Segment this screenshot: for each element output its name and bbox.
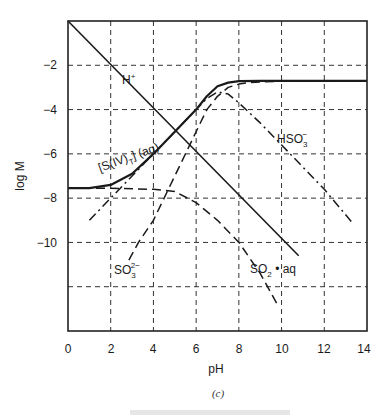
y-tick: −2 bbox=[43, 58, 57, 72]
cut-off-figure-title bbox=[130, 410, 290, 415]
figure-caption: (c) bbox=[212, 387, 225, 400]
label-so2-aq: SO2 • aq bbox=[250, 262, 296, 279]
label-so3: SO32− bbox=[114, 261, 140, 280]
x-tick: 2 bbox=[108, 342, 115, 356]
y-tick: −6 bbox=[43, 147, 57, 161]
x-tick: 0 bbox=[65, 342, 72, 356]
x-tick: 8 bbox=[236, 342, 243, 356]
x-tick: 12 bbox=[317, 342, 331, 356]
x-tick: 6 bbox=[193, 342, 200, 356]
y-axis-label: log M bbox=[13, 161, 27, 190]
y-tick: −8 bbox=[43, 191, 57, 205]
x-axis-label: pH bbox=[208, 362, 223, 376]
series-line bbox=[129, 81, 367, 260]
x-tick: 10 bbox=[275, 342, 289, 356]
label-siv-total: [S(IV)T] (aq) bbox=[96, 140, 162, 178]
series-line bbox=[89, 92, 352, 223]
series-line bbox=[68, 21, 299, 256]
y-axis-ticks: −2 −4 −6 −8 −10 bbox=[37, 58, 58, 250]
y-tick: −10 bbox=[37, 236, 58, 250]
log-concentration-chart: −2 −4 −6 −8 −10 0 2 4 6 8 10 12 14 pH lo… bbox=[0, 0, 384, 415]
label-hso3: HSO3− bbox=[277, 130, 308, 149]
label-h-plus: H+ bbox=[122, 72, 136, 87]
x-tick: 4 bbox=[150, 342, 157, 356]
y-tick: −4 bbox=[43, 103, 57, 117]
x-tick: 14 bbox=[357, 342, 371, 356]
x-axis-ticks: 0 2 4 6 8 10 12 14 bbox=[65, 342, 371, 356]
